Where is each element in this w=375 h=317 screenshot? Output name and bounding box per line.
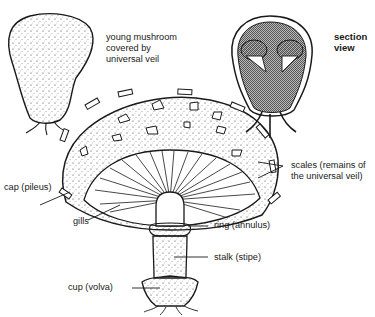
mushroom-diagram <box>0 0 375 317</box>
section-label-line-2: view <box>334 42 367 53</box>
section-view-label: section view <box>334 31 367 53</box>
section-label-line-1: section <box>334 31 367 42</box>
young-label-line-3: universal veil <box>106 54 177 65</box>
stalk-label: stalk (stipe) <box>214 252 261 263</box>
young-label-line-2: covered by <box>106 43 177 54</box>
young-mushroom-label: young mushroom covered by universal veil <box>106 32 177 65</box>
ring-label: ring (annulus) <box>214 220 270 231</box>
scales-label-line-2: the universal veil) <box>291 171 366 182</box>
cap-label: cap (pileus) <box>4 182 52 193</box>
scales-label-line-1: scales (remains of <box>291 160 366 171</box>
gills-label: gills <box>73 216 89 227</box>
cup-label: cup (volva) <box>68 282 113 293</box>
young-mushroom <box>9 14 93 135</box>
scales-label: scales (remains of the universal veil) <box>291 160 366 182</box>
young-label-line-1: young mushroom <box>106 32 177 43</box>
